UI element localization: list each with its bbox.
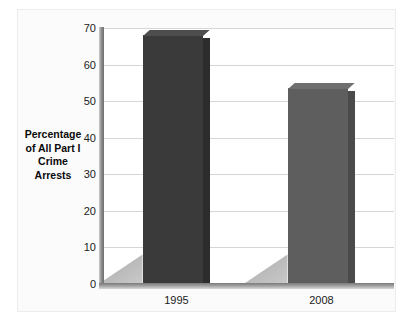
gridline [104,28,394,29]
bar-side-face [203,38,210,284]
bar [143,35,203,284]
y-axis-tick-label: 30 [58,169,96,180]
y-axis-tick-label: 60 [58,60,96,71]
y-axis-tick-label: 70 [58,23,96,34]
y-axis-tick-label: 20 [58,206,96,217]
y-axis-tick-label: 0 [58,279,96,290]
y-axis-tick-label: 40 [58,133,96,144]
y-axis-line [99,27,104,285]
plot-area [104,28,394,284]
bar [288,88,348,284]
y-axis-tick-label: 10 [58,242,96,253]
y-axis-tick-label: 50 [58,96,96,107]
bar-front-face [143,35,203,284]
bar-shadow [244,254,288,284]
bar-front-face [288,88,348,284]
x-axis-line [99,283,394,289]
bar-side-face [348,91,355,284]
x-axis-tick-label: 1995 [147,294,207,306]
bar-shadow [99,254,143,284]
bar-chart: Percentage of All Part I Crime Arrests 0… [0,0,413,325]
y-axis-tick-labels: 010203040506070 [52,0,96,325]
bar-top-face [143,30,210,36]
x-axis-tick-label: 2008 [292,294,352,306]
bar-top-face [288,83,355,89]
